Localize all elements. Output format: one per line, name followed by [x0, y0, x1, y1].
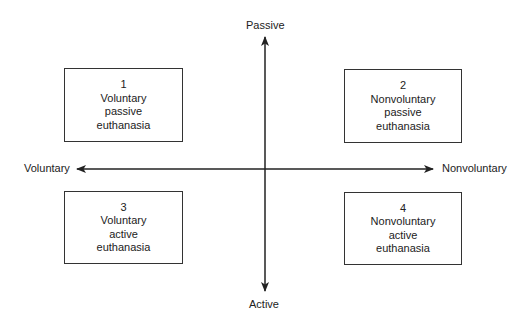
axis-label-nonvoluntary: Nonvoluntary [442, 162, 507, 174]
quadrant-line: passive [105, 105, 142, 119]
quadrant-line: passive [384, 106, 421, 120]
axes [0, 0, 531, 318]
axis-label-passive: Passive [246, 19, 285, 31]
quadrant-number: 2 [400, 79, 406, 93]
quadrant-line: active [389, 229, 418, 243]
quadrant-1-voluntary-passive: 1 Voluntary passive euthanasia [64, 68, 183, 142]
quadrant-number: 4 [400, 202, 406, 216]
axis-label-voluntary: Voluntary [24, 162, 70, 174]
quadrant-line: euthanasia [376, 120, 430, 134]
quadrant-line: Voluntary [101, 92, 147, 106]
quadrant-line: Nonvoluntary [371, 93, 436, 107]
quadrant-number: 1 [120, 78, 126, 92]
quadrant-line: Nonvoluntary [371, 215, 436, 229]
quadrant-2-nonvoluntary-passive: 2 Nonvoluntary passive euthanasia [344, 69, 462, 143]
axis-label-active: Active [249, 298, 279, 310]
quadrant-line: active [109, 228, 138, 242]
quadrant-line: euthanasia [376, 242, 430, 256]
euthanasia-quadrant-diagram: Passive Active Voluntary Nonvoluntary 1 … [0, 0, 531, 318]
quadrant-3-voluntary-active: 3 Voluntary active euthanasia [64, 191, 183, 264]
quadrant-number: 3 [120, 201, 126, 215]
quadrant-line: euthanasia [97, 119, 151, 133]
quadrant-line: Voluntary [101, 214, 147, 228]
quadrant-line: euthanasia [97, 241, 151, 255]
quadrant-4-nonvoluntary-active: 4 Nonvoluntary active euthanasia [344, 192, 462, 265]
